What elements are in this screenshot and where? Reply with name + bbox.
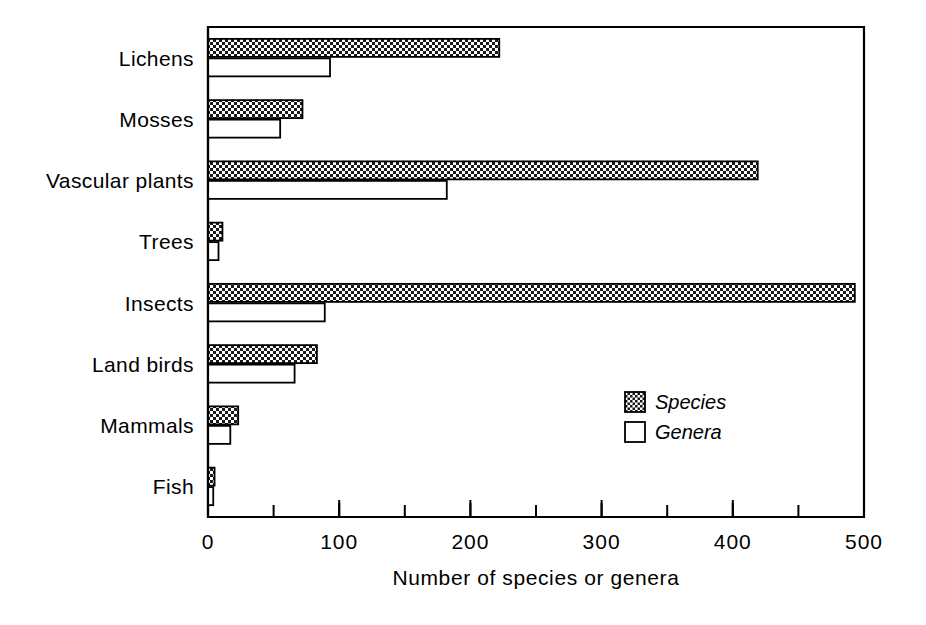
bar-species <box>208 406 238 424</box>
bar-genera <box>208 181 447 199</box>
x-tick-label: 200 <box>451 530 489 553</box>
category-label: Insects <box>125 292 194 315</box>
category-label: Land birds <box>92 353 194 376</box>
x-tick-label: 400 <box>714 530 752 553</box>
category-label: Mosses <box>119 108 194 131</box>
x-tick-label: 300 <box>583 530 621 553</box>
legend-label-species: Species <box>655 391 726 413</box>
bar-species <box>208 39 499 57</box>
bar-species <box>208 345 317 363</box>
bar-genera <box>208 242 218 260</box>
chart-canvas: LichensMossesVascular plantsTreesInsects… <box>0 0 926 625</box>
category-label: Mammals <box>100 414 194 437</box>
bar-genera <box>208 303 325 321</box>
x-axis-title: Number of species or genera <box>392 566 679 589</box>
bar-genera <box>208 120 280 138</box>
x-tick-label: 100 <box>320 530 358 553</box>
category-label: Lichens <box>119 47 194 70</box>
x-tick-label: 500 <box>845 530 883 553</box>
bar-species <box>208 223 222 241</box>
bar-species <box>208 284 855 302</box>
category-label: Fish <box>153 475 194 498</box>
bar-genera <box>208 58 330 76</box>
bar-species <box>208 100 302 118</box>
x-tick-label: 0 <box>202 530 215 553</box>
bar-chart: LichensMossesVascular plantsTreesInsects… <box>0 0 926 625</box>
bar-genera <box>208 426 230 444</box>
category-label: Vascular plants <box>46 169 194 192</box>
legend-label-genera: Genera <box>655 421 722 443</box>
category-label: Trees <box>139 230 194 253</box>
bar-species <box>208 161 758 179</box>
legend-swatch-species <box>625 392 645 412</box>
bar-genera <box>208 365 295 383</box>
legend-swatch-genera <box>625 422 645 442</box>
